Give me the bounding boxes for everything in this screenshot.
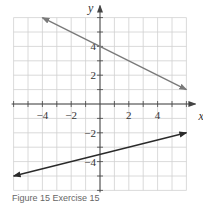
axes	[12, 6, 196, 193]
x-tick-label: 2	[126, 109, 132, 121]
x-tick-label: −4	[37, 109, 49, 121]
tick-labels: −4−22442−2−4xy	[37, 1, 203, 168]
x-tick-label: −2	[65, 109, 77, 121]
y-tick-label: −2	[84, 127, 96, 139]
y-axis-label: y	[87, 1, 94, 15]
x-tick-label: 4	[155, 109, 161, 121]
coordinate-plane: −4−22442−2−4xy	[0, 0, 203, 205]
x-axis-label: x	[197, 109, 203, 123]
y-tick-label: 2	[91, 69, 97, 81]
figure-caption: Figure 15 Exercise 15	[12, 193, 100, 203]
